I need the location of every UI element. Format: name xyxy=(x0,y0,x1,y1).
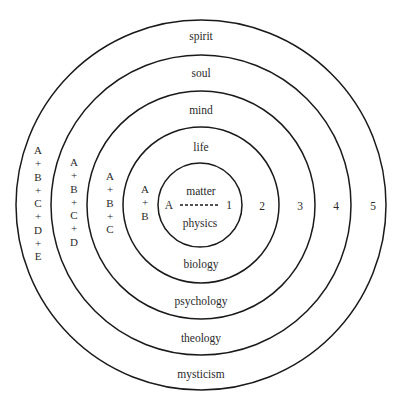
stack-ring-4: A + B + C + D xyxy=(70,156,78,249)
label-mind: mind xyxy=(189,104,213,116)
label-life: life xyxy=(193,141,208,153)
label-matter: matter xyxy=(186,185,215,197)
label-spirit: spirit xyxy=(189,30,213,42)
ring-4-number: 4 xyxy=(333,200,339,212)
label-biology: biology xyxy=(183,258,218,270)
label-psychology: psychology xyxy=(174,295,227,307)
axis-start-label: A xyxy=(165,199,173,211)
stack-ring-5: A + B + C + D + E xyxy=(34,144,42,264)
ring-3-number: 3 xyxy=(297,200,303,212)
stack-ring-2: A + B xyxy=(141,183,149,223)
label-soul: soul xyxy=(191,67,210,79)
ring-5-number: 5 xyxy=(370,200,376,212)
label-mysticism: mysticism xyxy=(177,368,224,380)
label-physics: physics xyxy=(183,217,218,229)
stack-ring-3: A + B + C xyxy=(106,170,114,236)
label-theology: theology xyxy=(181,332,221,344)
ring-1-number: 1 xyxy=(226,199,232,211)
ring-2-number: 2 xyxy=(259,200,265,212)
